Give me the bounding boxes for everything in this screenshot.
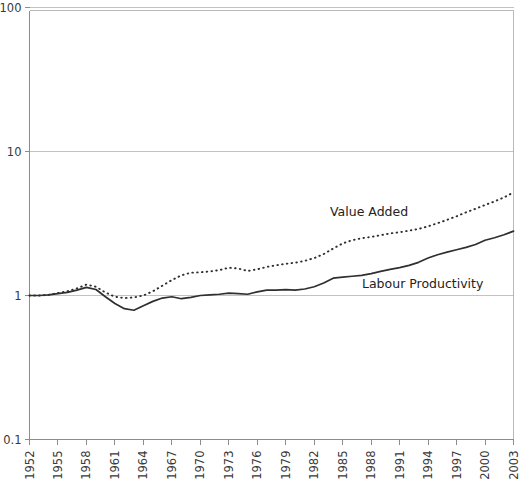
x-axis-label: 1982 (307, 451, 321, 480)
x-axis-label: 1979 (279, 451, 293, 480)
annotation-value-added: Value Added (330, 204, 408, 219)
x-axis-labels: 1952195519581961196419671970197319761979… (23, 451, 521, 480)
series-line-labour-productivity (30, 231, 514, 310)
x-tick-marks (30, 440, 514, 445)
plot-frame (25, 8, 514, 440)
series-annotations: Value AddedLabour Productivity (330, 204, 484, 291)
x-axis-label: 1994 (421, 451, 435, 480)
y-axis-labels: 1001010.1 (0, 1, 22, 447)
log-line-chart: 1001010.1 195219551958196119641967197019… (0, 0, 525, 486)
x-axis-label: 1955 (51, 451, 65, 480)
x-axis-label: 1973 (222, 451, 236, 480)
x-axis-label: 1976 (250, 451, 264, 480)
y-axis-label: 10 (7, 145, 22, 159)
annotation-labour-productivity: Labour Productivity (362, 276, 484, 291)
chart-canvas: 1001010.1 195219551958196119641967197019… (0, 0, 525, 486)
y-axis-label: 1 (14, 289, 21, 303)
x-axis-label: 1964 (136, 451, 150, 480)
x-axis-label: 1961 (108, 451, 122, 480)
x-axis-label: 1970 (193, 451, 207, 480)
x-axis-label: 1985 (336, 451, 350, 480)
x-axis-label: 1952 (23, 451, 37, 480)
x-axis-label: 1967 (165, 451, 179, 480)
x-axis-label: 1991 (393, 451, 407, 480)
y-axis-label: 100 (0, 1, 22, 15)
x-axis-label: 1958 (79, 451, 93, 480)
x-axis-label: 2003 (507, 451, 521, 480)
x-axis-label: 2000 (478, 451, 492, 480)
x-axis-label: 1988 (364, 451, 378, 480)
y-axis-label: 0.1 (3, 433, 21, 447)
x-axis-label: 1997 (450, 451, 464, 480)
data-series (30, 192, 514, 310)
gridlines (30, 8, 514, 440)
